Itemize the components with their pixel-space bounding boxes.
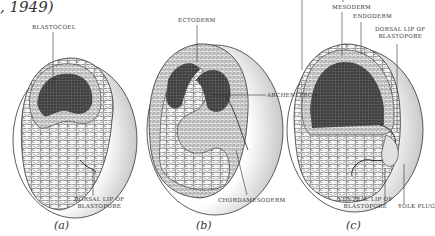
label-ventral-lip: VENTRAL LIP OF BLASTOPORE (338, 196, 393, 209)
label-mesoderm: MESODERM (332, 4, 371, 11)
label-dorsal-lip-c-line1: DORSAL LIP OF (375, 26, 425, 33)
label-yolk-plug: YOLK PLUG (398, 203, 435, 210)
label-blastocoel: BLASTOCOEL (32, 24, 76, 31)
label-endoderm: ENDODERM (353, 13, 392, 20)
panel-a-letter: (a) (54, 219, 69, 232)
label-dorsal-lip-a: DORSAL LIP OF BLASTOPORE (74, 196, 124, 209)
label-ventral-lip-line1: VENTRAL LIP OF (338, 196, 393, 203)
label-dorsal-lip-a-line2: BLASTOPORE (74, 203, 124, 210)
label-chordamesoderm: CHORDAMESODERM (218, 197, 285, 204)
panel-a-embryo (13, 32, 137, 218)
panel-c-letter: (c) (346, 219, 361, 232)
panel-b-letter: (b) (196, 219, 212, 232)
label-ectoderm: ECTODERM (178, 17, 216, 24)
label-archenteron-b: ARCHENTERON (267, 92, 318, 99)
label-dorsal-lip-c-line2: BLASTOPORE (375, 33, 425, 40)
label-dorsal-lip-a-line1: DORSAL LIP OF (74, 196, 124, 203)
label-ventral-lip-line2: BLASTOPORE (338, 203, 393, 210)
panel-b-embryo (147, 25, 283, 215)
label-dorsal-lip-c: DORSAL LIP OF BLASTOPORE (375, 26, 425, 39)
